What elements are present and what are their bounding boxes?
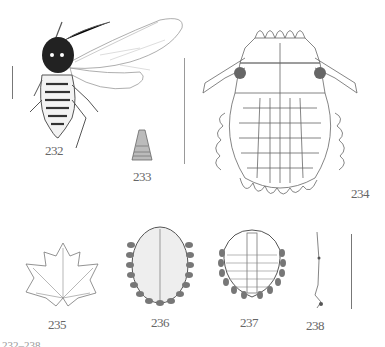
figure-234-nymph-detailed	[195, 18, 375, 208]
caption-text: 232–238 ...	[0, 340, 385, 347]
scale-bar-238	[351, 234, 352, 309]
figure-caption-cropped: 232–238 ...	[0, 340, 385, 347]
figure-236-nymph-stippled	[123, 225, 198, 310]
figure-label-237: 237	[240, 315, 258, 331]
figure-plate: 232 233	[0, 0, 385, 347]
figure-label-232: 232	[45, 143, 63, 159]
scale-bar-232	[12, 66, 13, 99]
figure-label-235: 235	[48, 317, 66, 333]
figure-label-238: 238	[306, 318, 324, 334]
figure-label-234: 234	[351, 186, 369, 202]
figure-233-cornicle	[128, 126, 158, 166]
scale-bar-234	[184, 58, 185, 164]
figure-235-leaf	[18, 238, 108, 313]
figure-238-appendage	[305, 230, 335, 315]
figure-label-236: 236	[151, 315, 169, 331]
figure-232-winged-aphid	[0, 0, 200, 160]
figure-label-233: 233	[133, 169, 151, 185]
figure-237-nymph-segmented	[212, 225, 292, 305]
